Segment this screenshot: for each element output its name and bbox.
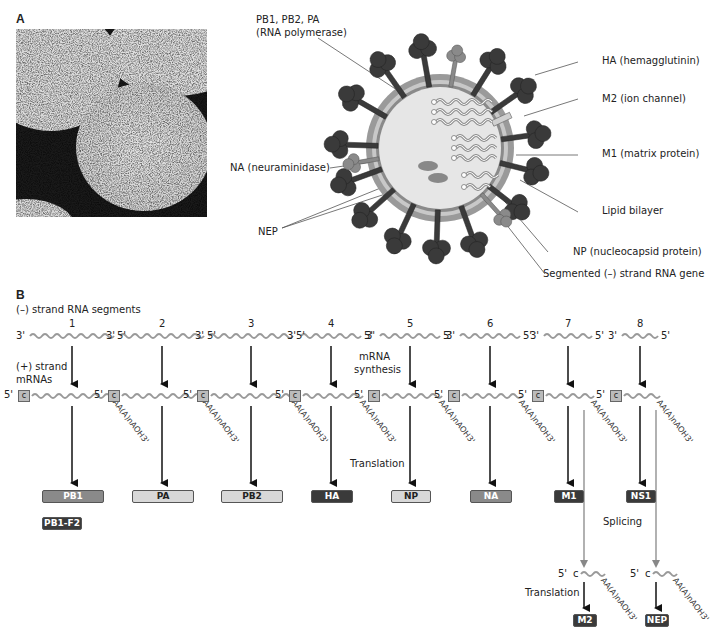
cap-box: c [18, 390, 30, 402]
segment-number: 7 [565, 318, 571, 329]
label-ha: HA (hemagglutinin) [602, 55, 700, 66]
spliced-poly-a-tail: AA(A)nAOH3' [671, 576, 711, 623]
cap-box: c [532, 390, 544, 402]
pos-strand-title-2: mRNAs [16, 374, 52, 385]
five-prime-end: 5' [296, 330, 305, 341]
protein-ha: HA [311, 490, 353, 503]
segment-number: 1 [69, 318, 75, 329]
label-polymerase-2: (RNA polymerase) [256, 27, 347, 38]
neg-strand-title: (–) strand RNA segments [16, 304, 141, 315]
poly-a-tail: AA(A)nAOH3' [111, 398, 151, 445]
cap-box: c [197, 390, 209, 402]
poly-a-tail: AA(A)nAOH3' [517, 398, 557, 445]
mrna-five-prime: 5' [596, 389, 605, 400]
label-na: NA (neuraminidase) [230, 162, 330, 173]
three-prime-end: 3' [287, 330, 296, 341]
three-prime-end: 3' [106, 330, 115, 341]
mrna-synthesis-1: mRNA [359, 351, 390, 362]
spliced-five-prime: 5' [630, 568, 639, 579]
protein-pb1: PB1 [42, 490, 104, 503]
pos-strand-title-1: (+) strand [16, 361, 67, 372]
segment-number: 8 [637, 318, 643, 329]
protein-nep: NEP [645, 614, 669, 627]
protein-m1: M1 [554, 490, 584, 503]
mrna-five-prime: 5' [4, 389, 13, 400]
mrna-five-prime: 5' [183, 389, 192, 400]
protein-ns1: NS1 [626, 490, 656, 503]
mrna-five-prime: 5' [518, 389, 527, 400]
segment-number: 2 [159, 318, 165, 329]
mrna-synthesis-2: synthesis [354, 364, 401, 375]
three-prime-end: 3' [608, 330, 617, 341]
translation-label-2: Translation [525, 587, 580, 598]
cap-box: c [108, 390, 120, 402]
spliced-five-prime: 5' [558, 568, 567, 579]
splicing-label: Splicing [603, 516, 642, 527]
cap-box: c [289, 390, 301, 402]
three-prime-end: 3' [195, 330, 204, 341]
label-m2: M2 (ion channel) [602, 93, 686, 104]
label-lipid-bilayer: Lipid bilayer [602, 205, 663, 216]
poly-a-tail: AA(A)nAOH3' [437, 398, 477, 445]
label-np: NP (nucleocapsid protein) [573, 246, 702, 257]
label-polymerase-1: PB1, PB2, PA [256, 14, 319, 25]
spliced-cap: c [645, 568, 651, 579]
segment-number: 3 [248, 318, 254, 329]
protein-na: NA [470, 490, 512, 503]
three-prime-end: 3' [16, 330, 25, 341]
mrna-five-prime: 5' [94, 389, 103, 400]
mrna-five-prime: 5' [354, 389, 363, 400]
five-prime-end: 5' [117, 330, 126, 341]
segment-number: 5 [407, 318, 413, 329]
label-m1: M1 (matrix protein) [602, 148, 699, 159]
mrna-five-prime: 5' [275, 389, 284, 400]
spliced-poly-a-tail: AA(A)nAOH3' [599, 576, 639, 623]
segment-number: 6 [487, 318, 493, 329]
poly-a-tail: AA(A)nAOH3' [290, 398, 330, 445]
translation-label: Translation [350, 458, 405, 469]
poly-a-tail: AA(A)nAOH3' [589, 398, 629, 445]
panel-b-letter: B [16, 288, 25, 302]
spliced-cap: c [573, 568, 579, 579]
three-prime-end: 3' [366, 330, 375, 341]
five-prime-end: 5' [207, 330, 216, 341]
poly-a-tail: AA(A)nAOH3' [655, 398, 695, 445]
mrna-five-prime: 5' [434, 389, 443, 400]
protein-pb2: PB2 [221, 490, 283, 503]
cap-box: c [610, 390, 622, 402]
poly-a-tail: AA(A)nAOH3' [201, 398, 241, 445]
three-prime-end: 3' [446, 330, 455, 341]
cap-box: c [448, 390, 460, 402]
protein-pb1-f2: PB1-F2 [42, 517, 82, 530]
five-prime-end: 5' [661, 330, 670, 341]
three-prime-end: 3' [530, 330, 539, 341]
poly-a-tail: AA(A)nAOH3' [358, 398, 398, 445]
cap-box: c [368, 390, 380, 402]
five-prime-end: 5' [595, 330, 604, 341]
protein-pa: PA [132, 490, 194, 503]
segment-number: 4 [328, 318, 334, 329]
label-nep: NEP [258, 226, 278, 237]
protein-np: NP [391, 490, 431, 503]
label-segmented-rna: Segmented (–) strand RNA gene [543, 268, 704, 279]
protein-m2: M2 [573, 614, 597, 627]
